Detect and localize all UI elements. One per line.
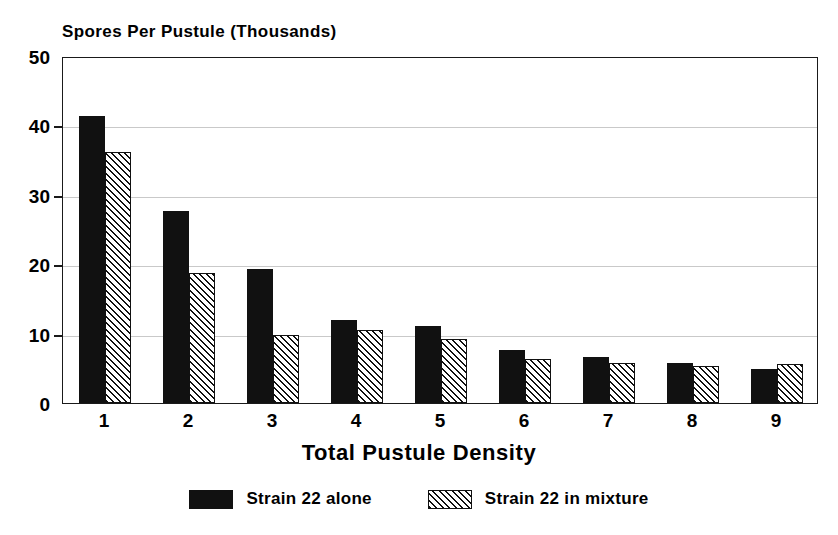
x-axis-tick-label: 2	[183, 410, 194, 432]
bar-group	[163, 58, 215, 403]
x-axis-tick-label: 8	[687, 410, 698, 432]
bar-strain-alone	[751, 369, 777, 403]
x-axis-tick-label: 9	[771, 410, 782, 432]
y-axis-tick-mark	[54, 126, 63, 128]
bar-strain-alone	[247, 269, 273, 403]
y-axis-tick-label: 50	[29, 47, 50, 69]
bar-group	[499, 58, 551, 403]
bar-strain-mixture	[441, 339, 467, 403]
y-axis-tick-mark	[54, 265, 63, 267]
legend-item: Strain 22 in mixture	[428, 489, 649, 509]
x-axis-tick-label: 7	[603, 410, 614, 432]
bar-strain-alone	[163, 211, 189, 403]
legend-swatch-solid	[189, 490, 233, 509]
bar-strain-alone	[667, 363, 693, 403]
bar-strain-mixture	[273, 335, 299, 403]
y-axis-tick-mark	[54, 196, 63, 198]
bar-chart-figure: Spores Per Pustule (Thousands) 010203040…	[0, 0, 838, 535]
bars-layer	[63, 58, 817, 403]
bar-strain-mixture	[609, 363, 635, 403]
legend-label: Strain 22 alone	[246, 489, 371, 509]
bar-strain-alone	[583, 357, 609, 403]
bar-strain-alone	[415, 326, 441, 403]
x-axis-tick-label: 1	[99, 410, 110, 432]
bar-strain-mixture	[777, 364, 803, 403]
bar-group	[79, 58, 131, 403]
chart-title: Spores Per Pustule (Thousands)	[62, 22, 337, 42]
y-axis-tick-label: 10	[29, 325, 50, 347]
bar-strain-mixture	[357, 330, 383, 403]
legend-item: Strain 22 alone	[189, 489, 371, 509]
x-axis-tick-label: 5	[435, 410, 446, 432]
bar-group	[247, 58, 299, 403]
bar-strain-mixture	[105, 152, 131, 403]
bar-strain-alone	[79, 116, 105, 403]
bar-group	[751, 58, 803, 403]
y-axis-tick-mark	[54, 335, 63, 337]
bar-group	[583, 58, 635, 403]
bar-group	[331, 58, 383, 403]
bar-strain-mixture	[189, 273, 215, 403]
x-axis-title: Total Pustule Density	[0, 440, 838, 466]
bar-strain-alone	[331, 320, 357, 403]
bar-strain-mixture	[525, 359, 551, 403]
legend-swatch-hatched	[428, 490, 472, 509]
y-axis-tick-label: 0	[39, 394, 50, 416]
x-axis-tick-label: 6	[519, 410, 530, 432]
bar-group	[415, 58, 467, 403]
bar-strain-alone	[499, 350, 525, 403]
bar-strain-mixture	[693, 366, 719, 403]
x-axis-tick-labels: 123456789	[62, 406, 818, 438]
legend-label: Strain 22 in mixture	[485, 489, 649, 509]
y-axis-tick-label: 40	[29, 116, 50, 138]
bar-group	[667, 58, 719, 403]
y-axis-tick-label: 20	[29, 255, 50, 277]
x-axis-tick-label: 4	[351, 410, 362, 432]
y-axis-tick-label: 30	[29, 186, 50, 208]
chart-legend: Strain 22 aloneStrain 22 in mixture	[0, 489, 838, 509]
x-axis-tick-label: 3	[267, 410, 278, 432]
plot-area: 01020304050	[62, 57, 818, 404]
